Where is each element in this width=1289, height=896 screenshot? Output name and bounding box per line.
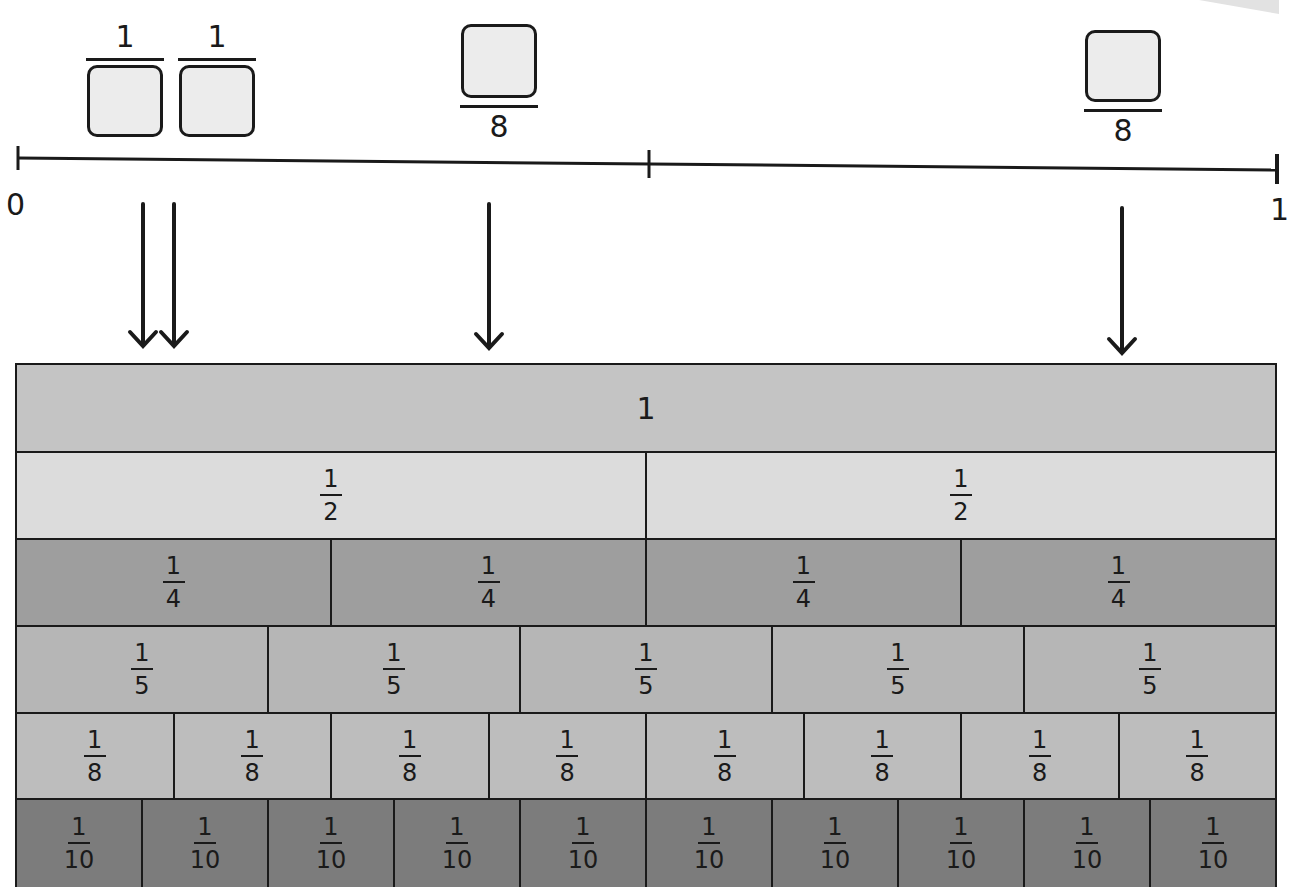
wall-cell: 110 [1025,800,1151,887]
fraction-numerator: 1 [827,815,842,839]
unit-fraction: 12 [950,467,972,524]
unit-fraction: 110 [1072,815,1103,872]
fraction-numerator: 1 [1190,728,1205,752]
wall-cell: 12 [17,453,647,538]
fraction-bar [698,842,720,844]
unit-fraction: 14 [793,554,815,611]
fraction-numerator: 1 [875,728,890,752]
fraction-numerator: 1 [1142,641,1157,665]
fraction-denominator: 10 [820,848,851,872]
arrow-down-icon [161,204,187,346]
unit-fraction: 110 [694,815,725,872]
fraction-numerator: 1 [197,815,212,839]
wall-row-halves: 1212 [17,453,1275,540]
fraction-denominator: 10 [694,848,725,872]
unit-fraction: 110 [1198,815,1229,872]
fraction-numerator: 1 [386,641,401,665]
unit-fraction: 110 [568,815,599,872]
fraction-numerator: 1 [953,815,968,839]
fraction-bar [635,668,657,670]
fraction-numerator: 1 [134,641,149,665]
unit-fraction: 18 [241,728,263,785]
wall-cell: 110 [395,800,521,887]
fraction-bar [950,842,972,844]
wall-cell: 15 [521,627,773,712]
fraction-bar [1108,581,1130,583]
fraction-numerator: 1 [71,815,86,839]
fraction-bar [572,842,594,844]
fraction-numerator: 1 [1111,554,1126,578]
unit-fraction: 18 [556,728,578,785]
fraction-bar [163,581,185,583]
fraction-numerator: 1 [402,728,417,752]
wall-cell: 110 [773,800,899,887]
fraction-numerator: 1 [890,641,905,665]
wall-cell: 12 [647,453,1275,538]
fraction-denominator: 10 [316,848,347,872]
fraction-denominator: 8 [87,761,102,785]
wall-row-eighths: 1818181818181818 [17,714,1275,800]
unit-fraction: 18 [84,728,106,785]
fraction-bar [478,581,500,583]
wall-cell: 110 [17,800,143,887]
fraction-denominator: 4 [1111,587,1126,611]
fraction-denominator: 5 [386,674,401,698]
fraction-denominator: 4 [481,587,496,611]
fraction-bar [1139,668,1161,670]
fraction-numerator: 1 [575,815,590,839]
fraction-denominator: 4 [796,587,811,611]
fraction-numerator: 1 [560,728,575,752]
wall-cell: 14 [17,540,332,625]
fraction-bar [871,755,893,757]
fraction-denominator: 2 [323,500,338,524]
fraction-denominator: 8 [560,761,575,785]
fraction-numerator: 1 [449,815,464,839]
fraction-denominator: 4 [166,587,181,611]
fraction-bar [84,755,106,757]
wall-cell: 15 [17,627,269,712]
fraction-numerator: 1 [1032,728,1047,752]
wall-cell: 14 [962,540,1275,625]
fraction-bar [194,842,216,844]
wall-cell: 18 [962,714,1120,798]
arrow-down-icon [476,204,502,348]
unit-fraction: 18 [714,728,736,785]
unit-fraction: 15 [635,641,657,698]
fraction-denominator: 5 [1142,674,1157,698]
fraction-numerator: 1 [701,815,716,839]
fraction-denominator: 10 [1198,848,1229,872]
fraction-bar [320,494,342,496]
unit-fraction: 15 [131,641,153,698]
wall-cell: 15 [1025,627,1275,712]
fraction-denominator: 10 [190,848,221,872]
wall-cell-label: 1 [636,391,655,426]
fraction-bar [1029,755,1051,757]
fraction-denominator: 5 [638,674,653,698]
unit-fraction: 15 [383,641,405,698]
wall-cell: 110 [1151,800,1275,887]
fraction-denominator: 8 [402,761,417,785]
fraction-bar [887,668,909,670]
wall-cell: 14 [647,540,962,625]
fraction-denominator: 10 [568,848,599,872]
wall-row-quarters: 14141414 [17,540,1275,627]
fraction-denominator: 5 [890,674,905,698]
wall-cell: 110 [269,800,395,887]
fraction-denominator: 8 [1032,761,1047,785]
fraction-numerator: 1 [481,554,496,578]
unit-fraction: 110 [190,815,221,872]
fraction-bar [1202,842,1224,844]
fraction-bar [131,668,153,670]
unit-fraction: 14 [478,554,500,611]
fraction-bar [556,755,578,757]
arrows-layer [0,0,1279,362]
fraction-denominator: 10 [946,848,977,872]
arrow-down-icon [1109,208,1135,353]
unit-fraction: 18 [1029,728,1051,785]
fraction-numerator: 1 [87,728,102,752]
fraction-bar [399,755,421,757]
wall-cell: 18 [805,714,963,798]
fraction-numerator: 1 [953,467,968,491]
wall-row-fifths: 1515151515 [17,627,1275,714]
wall-cell: 18 [647,714,805,798]
